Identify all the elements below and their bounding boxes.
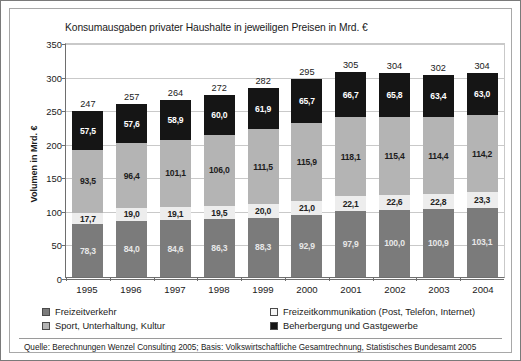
bar-segment[interactable]: 19,0 — [116, 208, 147, 221]
bar-segment[interactable]: 86,3 — [204, 219, 235, 277]
stacked-bar[interactable]: 78,317,793,557,5 — [72, 111, 103, 277]
stacked-bar[interactable]: 84,019,096,457,6 — [116, 104, 147, 277]
bar-column[interactable]: 88,320,0111,561,9282 — [241, 44, 285, 277]
x-tick-mark — [197, 277, 198, 281]
bar-column[interactable]: 100,922,8114,463,4302 — [416, 44, 460, 277]
bar-segment[interactable]: 115,9 — [291, 123, 322, 201]
legend-swatch-icon — [270, 308, 278, 316]
bar-segment[interactable]: 21,0 — [291, 201, 322, 215]
plot-area: 050100150200250300350 78,317,793,557,524… — [65, 43, 505, 278]
bar-segment[interactable]: 20,0 — [248, 204, 279, 217]
bar-segment[interactable]: 22,1 — [335, 196, 366, 211]
bar-column[interactable]: 92,921,0115,965,7295 — [285, 44, 329, 277]
x-tick-mark — [154, 277, 155, 281]
bar-segment[interactable]: 101,1 — [160, 140, 191, 208]
legend-swatch-icon — [42, 322, 50, 330]
bar-segment[interactable]: 61,9 — [248, 88, 279, 130]
bar-segment[interactable]: 19,1 — [160, 207, 191, 220]
bar-total-label: 272 — [212, 83, 227, 93]
bar-segment[interactable]: 65,8 — [379, 73, 410, 117]
bar-total-label: 304 — [387, 61, 402, 71]
bar-total-label: 247 — [80, 99, 95, 109]
legend-label: Freizeitkommunikation (Post, Telefon, In… — [283, 307, 475, 317]
bar-segment[interactable]: 22,6 — [379, 195, 410, 210]
bar-total-label: 304 — [474, 61, 489, 71]
bar-segment[interactable]: 17,7 — [72, 213, 103, 225]
bar-segment[interactable]: 114,2 — [467, 115, 498, 192]
bar-segment[interactable]: 19,5 — [204, 206, 235, 219]
y-tick-label: 200 — [46, 139, 62, 150]
bar-segment[interactable]: 111,5 — [248, 129, 279, 204]
bar-column[interactable]: 103,123,3114,263,0304 — [460, 44, 504, 277]
x-axis-tick-label: 1999 — [241, 284, 285, 295]
x-tick-mark — [241, 277, 242, 281]
bar-segment[interactable]: 63,4 — [423, 75, 454, 118]
bar-segment[interactable]: 57,6 — [116, 104, 147, 143]
bar-segment[interactable]: 100,9 — [423, 209, 454, 277]
x-axis-labels: 1995199619971998199920002001200220032004 — [65, 284, 505, 295]
bar-total-label: 257 — [124, 92, 139, 102]
chart-frame: Konsumausgaben privater Haushalte in jew… — [9, 8, 512, 353]
stacked-bar[interactable]: 97,922,1118,166,7 — [335, 72, 366, 277]
stacked-bar[interactable]: 100,022,6115,465,8 — [379, 73, 410, 277]
x-axis-tick-label: 2004 — [461, 284, 505, 295]
legend-swatch-icon — [270, 322, 278, 330]
bar-segment[interactable]: 57,5 — [72, 111, 103, 150]
bar-segment[interactable]: 114,4 — [423, 117, 454, 194]
bar-segment[interactable]: 60,0 — [204, 95, 235, 135]
bar-segment[interactable]: 106,0 — [204, 135, 235, 206]
bar-column[interactable]: 84,619,1101,158,9264 — [154, 44, 198, 277]
bar-segment[interactable]: 22,8 — [423, 194, 454, 209]
stacked-bars: 78,317,793,557,524784,019,096,457,625784… — [66, 44, 504, 277]
bar-segment[interactable]: 118,1 — [335, 117, 366, 196]
legend-item[interactable]: Sport, Unterhaltung, Kultur — [42, 321, 270, 331]
bar-segment[interactable]: 65,7 — [291, 79, 322, 123]
bar-total-label: 295 — [299, 67, 314, 77]
chart-title: Konsumausgaben privater Haushalte in jew… — [65, 22, 368, 33]
bar-column[interactable]: 97,922,1118,166,7305 — [329, 44, 373, 277]
bar-segment[interactable]: 84,6 — [160, 220, 191, 277]
legend-swatch-icon — [42, 308, 50, 316]
stacked-bar[interactable]: 88,320,0111,561,9 — [248, 88, 279, 277]
source-divider — [19, 338, 502, 339]
legend-row: Sport, Unterhaltung, KulturBeherbergung … — [42, 321, 502, 331]
legend-label: Sport, Unterhaltung, Kultur — [55, 321, 165, 331]
bar-segment[interactable]: 103,1 — [467, 208, 498, 277]
legend-item[interactable]: Freizeitkommunikation (Post, Telefon, In… — [270, 307, 475, 317]
bar-segment[interactable]: 100,0 — [379, 210, 410, 277]
y-tick-label: 150 — [46, 173, 62, 184]
stacked-bar[interactable]: 84,619,1101,158,9 — [160, 100, 191, 277]
stacked-bar[interactable]: 103,123,3114,263,0 — [467, 73, 498, 277]
y-tick-label: 350 — [46, 39, 62, 50]
legend-item[interactable]: Beherbergung und Gastgewerbe — [270, 321, 418, 331]
bar-segment[interactable]: 63,0 — [467, 73, 498, 115]
x-tick-mark — [373, 277, 374, 281]
legend-item[interactable]: Freizeitverkehr — [42, 307, 270, 317]
bar-segment[interactable]: 92,9 — [291, 215, 322, 277]
y-tick-label: 100 — [46, 206, 62, 217]
bar-column[interactable]: 86,319,5106,060,0272 — [197, 44, 241, 277]
bar-total-label: 264 — [168, 88, 183, 98]
bar-segment[interactable]: 115,4 — [379, 117, 410, 194]
bar-segment[interactable]: 58,9 — [160, 100, 191, 140]
x-axis-tick-label: 1997 — [153, 284, 197, 295]
bar-segment[interactable]: 84,0 — [116, 221, 147, 277]
stacked-bar[interactable]: 86,319,5106,060,0 — [204, 95, 235, 277]
bar-column[interactable]: 100,022,6115,465,8304 — [373, 44, 417, 277]
stacked-bar[interactable]: 100,922,8114,463,4 — [423, 75, 454, 277]
x-axis-tick-label: 1996 — [109, 284, 153, 295]
bar-column[interactable]: 84,019,096,457,6257 — [110, 44, 154, 277]
y-tick-label: 300 — [46, 72, 62, 83]
bar-segment[interactable]: 88,3 — [248, 218, 279, 277]
bar-segment[interactable]: 96,4 — [116, 143, 147, 208]
source-note: Quelle: Berechnungen Wenzel Consulting 2… — [24, 343, 476, 352]
bar-segment[interactable]: 78,3 — [72, 224, 103, 277]
bar-segment[interactable]: 23,3 — [467, 192, 498, 208]
x-tick-mark — [329, 277, 330, 281]
bar-segment[interactable]: 66,7 — [335, 72, 366, 117]
x-tick-mark — [285, 277, 286, 281]
stacked-bar[interactable]: 92,921,0115,965,7 — [291, 79, 322, 277]
bar-column[interactable]: 78,317,793,557,5247 — [66, 44, 110, 277]
bar-segment[interactable]: 93,5 — [72, 150, 103, 213]
bar-segment[interactable]: 97,9 — [335, 211, 366, 277]
